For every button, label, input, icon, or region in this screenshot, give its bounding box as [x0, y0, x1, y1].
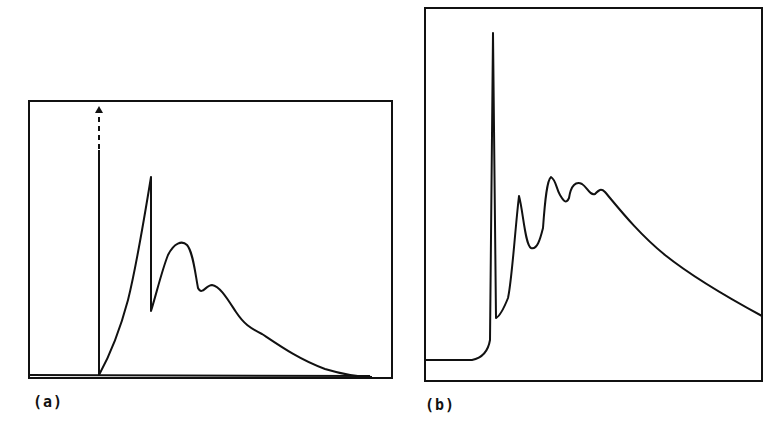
panel-a — [29, 101, 392, 378]
panel-a-curve — [99, 177, 372, 377]
panel-a-baseline — [29, 375, 370, 376]
panel-b-label: (b) — [425, 396, 455, 414]
panel-a-frame — [29, 101, 392, 378]
panel-b — [425, 8, 762, 381]
panel-a-label: (a) — [33, 393, 63, 411]
panel-a-arrowhead-icon — [95, 106, 103, 113]
panel-b-curve — [425, 33, 762, 360]
figure-canvas — [0, 0, 773, 435]
